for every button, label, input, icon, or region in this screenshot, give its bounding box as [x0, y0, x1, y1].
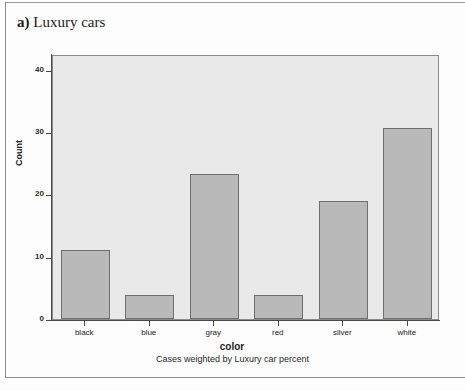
y-tick-label: 10 [35, 252, 44, 261]
y-tick-label: 0 [40, 314, 44, 323]
y-tick-20: 20 [46, 195, 51, 196]
y-tick-10: 10 [46, 258, 51, 259]
page-border-top [5, 2, 465, 3]
x-tick-label-red: red [272, 328, 284, 337]
page-border-left [5, 2, 6, 378]
plot-area [53, 56, 438, 319]
y-tick-30: 30 [46, 133, 51, 134]
bar-chart: 010203040 Count blackbluegrayredsilverwh… [22, 54, 442, 364]
bar-black [61, 250, 110, 319]
y-tick-label: 20 [35, 189, 44, 198]
x-tick-mark-black [84, 321, 85, 326]
bar-red [254, 295, 303, 319]
y-tick-mark [46, 71, 51, 72]
bar-blue [125, 295, 174, 319]
x-tick-label-black: black [75, 328, 94, 337]
y-tick-40: 40 [46, 71, 51, 72]
figure-caption-marker: a) [17, 14, 30, 30]
chart-footnote: Cases weighted by Luxury car percent [22, 354, 443, 364]
figure-caption-text: Luxury cars [33, 14, 105, 30]
page-border-bottom [5, 377, 465, 378]
document-page: a) Luxury cars 010203040 Count blackblue… [0, 0, 465, 391]
x-tick-mark-gray [213, 321, 214, 326]
x-tick-label-silver: silver [333, 328, 352, 337]
bar-white [383, 128, 432, 319]
x-axis-title: color [22, 341, 442, 352]
bar-gray [190, 174, 239, 319]
x-tick-mark-white [407, 321, 408, 326]
bar-silver [319, 201, 368, 319]
y-tick-mark [46, 133, 51, 134]
x-tick-label-blue: blue [141, 328, 156, 337]
y-tick-mark [46, 258, 51, 259]
x-tick-mark-blue [149, 321, 150, 326]
y-tick-label: 40 [35, 65, 44, 74]
y-axis-line [51, 54, 52, 320]
x-axis-line [51, 320, 440, 321]
y-axis-title: Count [14, 140, 24, 166]
y-tick-mark [46, 195, 51, 196]
y-tick-label: 30 [35, 127, 44, 136]
x-tick-label-white: white [397, 328, 416, 337]
x-tick-mark-silver [342, 321, 343, 326]
plot-frame [52, 55, 439, 320]
x-tick-mark-red [278, 321, 279, 326]
x-tick-label-gray: gray [205, 328, 221, 337]
figure-caption: a) Luxury cars [17, 14, 105, 31]
